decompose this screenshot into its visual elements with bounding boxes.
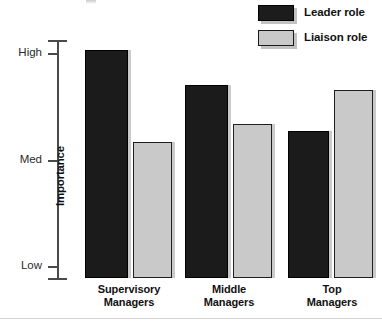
y-axis-title-text: Importance bbox=[54, 146, 66, 206]
bar-top-liaison bbox=[334, 90, 373, 278]
bar-middle-liaison bbox=[233, 124, 272, 278]
x-axis-label-middle-line2: Managers bbox=[177, 296, 281, 309]
y-tick-mark-high bbox=[48, 53, 58, 55]
y-axis-top-cap bbox=[48, 40, 67, 42]
y-tick-label-high: High bbox=[2, 46, 42, 58]
bar-supervisory-leader bbox=[85, 50, 128, 278]
x-axis-label-top-managers: Top Managers bbox=[283, 283, 381, 308]
plot-area: High Med Low Importance Supervisory Mana… bbox=[0, 0, 382, 326]
bottom-divider bbox=[0, 318, 382, 319]
y-axis-title: Importance bbox=[52, 128, 68, 224]
x-axis-label-top-line1: Top bbox=[322, 283, 341, 295]
bar-top-leader bbox=[288, 131, 329, 278]
bar-supervisory-liaison bbox=[133, 142, 172, 278]
x-axis-label-supervisory-line1: Supervisory bbox=[98, 283, 160, 295]
x-axis-label-middle-line1: Middle bbox=[212, 283, 246, 295]
bar-middle-leader bbox=[185, 85, 228, 278]
y-tick-label-med: Med bbox=[2, 153, 42, 165]
x-axis-label-top-line2: Managers bbox=[283, 296, 381, 309]
y-tick-label-low: Low bbox=[2, 259, 42, 271]
x-axis-label-supervisory-line2: Managers bbox=[72, 296, 186, 309]
y-axis-bottom-cap bbox=[48, 278, 67, 280]
x-axis-label-middle-managers: Middle Managers bbox=[177, 283, 281, 308]
x-axis-label-supervisory-managers: Supervisory Managers bbox=[72, 283, 186, 308]
bar-chart: Leader role Liaison role High Med Low Im… bbox=[0, 0, 382, 326]
y-tick-mark-low bbox=[48, 266, 58, 268]
